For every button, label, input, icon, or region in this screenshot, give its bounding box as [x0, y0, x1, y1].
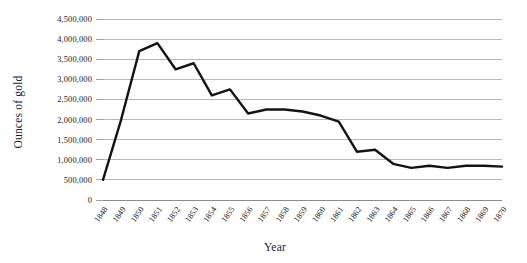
y-axis-tick-label: 1,500,000	[57, 136, 92, 145]
x-axis-tick-labels: 1848184918501851185218531854185518561857…	[93, 205, 509, 224]
gold-production-line-chart: 0500,0001,000,0001,500,0002,000,0002,500…	[0, 0, 527, 263]
chart-canvas: 0500,0001,000,0001,500,0002,000,0002,500…	[0, 0, 527, 263]
y-axis-tick-label: 3,000,000	[57, 75, 92, 84]
y-axis-title: Ounces of gold	[12, 75, 25, 148]
y-axis-tick-label: 4,500,000	[57, 15, 92, 24]
y-axis-tick-label: 2,000,000	[57, 116, 92, 125]
y-axis-tick-label: 2,500,000	[57, 95, 92, 104]
x-axis-title: Year	[264, 241, 286, 253]
y-axis-tick-label: 1,000,000	[57, 156, 92, 165]
y-axis-tick-label: 4,000,000	[57, 35, 92, 44]
y-axis-tick-label: 3,500,000	[57, 55, 92, 64]
y-axis-tick-label: 0	[88, 196, 92, 205]
y-axis-tick-label: 500,000	[64, 176, 92, 185]
